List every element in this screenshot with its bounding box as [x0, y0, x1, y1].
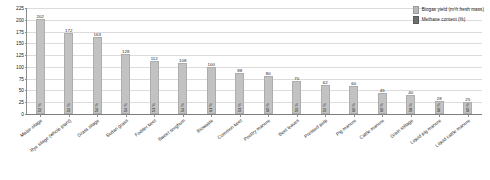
x-tick-mark — [382, 114, 383, 117]
x-tick-mark — [411, 114, 412, 117]
bar[interactable]: 4058 % — [406, 95, 415, 114]
bar[interactable]: 10854 % — [178, 63, 187, 114]
bar-value-label: 40 — [408, 90, 413, 95]
bar-group[interactable]: 8060 % — [254, 8, 283, 114]
methane-content-label: 53 % — [238, 103, 242, 112]
methane-content-label: 54 % — [124, 103, 128, 112]
legend-swatch-icon-methane — [413, 16, 419, 24]
bar-group[interactable]: 8853 % — [226, 8, 255, 114]
methane-content-label: 54 % — [95, 103, 99, 112]
bar-group[interactable]: 10061 % — [197, 8, 226, 114]
bar-group[interactable]: 10854 % — [169, 8, 198, 114]
bar[interactable]: 6060 % — [349, 86, 358, 114]
bar-value-label: 80 — [266, 71, 271, 76]
bar-value-label: 60 — [351, 81, 356, 86]
bar-group[interactable]: 16354 % — [83, 8, 112, 114]
bar-value-label: 88 — [237, 68, 242, 73]
x-label-slot: Rye silage (whole plant) — [55, 118, 84, 176]
bar-group[interactable]: 20252 % — [26, 8, 55, 114]
bar-value-label: 202 — [37, 14, 44, 19]
bar-group[interactable]: 17252 % — [55, 8, 84, 114]
x-label-slot: Sweet sorghum — [169, 118, 198, 176]
x-axis-category-label: Biowaste — [196, 118, 214, 134]
bar[interactable]: 2560 % — [463, 102, 472, 114]
x-label-slot: Beet leaves — [283, 118, 312, 176]
legend-label-methane: Methane content (%) — [422, 17, 466, 23]
bar[interactable]: 10061 % — [207, 67, 216, 114]
bar[interactable]: 6252 % — [321, 85, 330, 114]
bar-value-label: 28 — [437, 96, 442, 101]
bar[interactable]: 8060 % — [264, 76, 273, 114]
bar-group[interactable]: 6252 % — [311, 8, 340, 114]
x-label-slot: Cattle manure — [368, 118, 397, 176]
methane-content-label: 51 % — [152, 103, 156, 112]
x-label-slot: Grass silage — [83, 118, 112, 176]
x-tick-mark — [126, 114, 127, 117]
bar[interactable]: 4560 % — [378, 93, 387, 114]
methane-content-label: 60 % — [352, 103, 356, 112]
x-tick-mark — [154, 114, 155, 117]
x-tick-mark — [468, 114, 469, 117]
methane-content-label: 52 % — [67, 103, 71, 112]
bar-group[interactable]: 4560 % — [368, 8, 397, 114]
y-tick-label: 175 — [16, 29, 24, 34]
methane-content-label: 52 % — [38, 103, 42, 112]
x-axis-category-label: Maize silage — [20, 118, 44, 138]
x-tick-slot — [26, 114, 55, 117]
bar[interactable]: 17252 % — [64, 33, 73, 114]
bar[interactable]: 8853 % — [235, 73, 244, 114]
y-tick-label: 125 — [16, 53, 24, 58]
bar-value-label: 70 — [294, 76, 299, 81]
methane-content-label: 61 % — [209, 103, 213, 112]
bar-group[interactable]: 11251 % — [140, 8, 169, 114]
x-tick-slot — [340, 114, 369, 117]
x-tick-slot — [254, 114, 283, 117]
x-tick-mark — [97, 114, 98, 117]
y-tick-label: 200 — [16, 17, 24, 22]
y-tick-label: 75 — [19, 76, 24, 81]
methane-content-label: 55 % — [295, 103, 299, 112]
x-label-slot: Poultry manure — [254, 118, 283, 176]
y-tick-label: 0 — [21, 112, 24, 117]
methane-content-label: 60 % — [466, 103, 470, 112]
bar[interactable]: 16354 % — [93, 37, 102, 114]
x-label-slot: Biowaste — [197, 118, 226, 176]
bar-value-label: 112 — [151, 56, 158, 61]
chart-legend: Biogas yield (m³/t fresh mass) Methane c… — [413, 6, 484, 24]
methane-content-label: 58 % — [409, 103, 413, 112]
bar-group[interactable]: 12854 % — [112, 8, 141, 114]
x-tick-slot — [368, 114, 397, 117]
x-tick-mark — [40, 114, 41, 117]
x-label-slot: Pressed pulp — [311, 118, 340, 176]
bar-group[interactable]: 6060 % — [340, 8, 369, 114]
bar[interactable]: 12854 % — [121, 54, 130, 114]
bar[interactable]: 11251 % — [150, 61, 159, 114]
x-tick-mark — [240, 114, 241, 117]
bar-value-label: 108 — [179, 58, 186, 63]
x-tick-slot — [197, 114, 226, 117]
y-tick-label: 100 — [16, 64, 24, 69]
bar[interactable]: 7055 % — [292, 81, 301, 114]
x-tick-slot — [311, 114, 340, 117]
x-axis-labels: Maize silageRye silage (whole plant)Gras… — [26, 118, 482, 176]
x-tick-mark — [183, 114, 184, 117]
methane-content-label: 60 % — [266, 103, 270, 112]
y-tick-label: 225 — [16, 6, 24, 11]
x-tick-slot — [425, 114, 454, 117]
x-tick-mark — [354, 114, 355, 117]
y-tick-label: 25 — [19, 100, 24, 105]
bar[interactable]: 2860 % — [435, 101, 444, 114]
bar[interactable]: 20252 % — [36, 19, 45, 114]
bar-group[interactable]: 7055 % — [283, 8, 312, 114]
biogas-yield-bar-chart: Biogas yield (m³/t fresh mass) Methane c… — [0, 0, 490, 180]
x-label-slot: Sudan grass — [112, 118, 141, 176]
legend-item-methane-content: Methane content (%) — [413, 16, 484, 24]
methane-content-label: 60 % — [380, 103, 384, 112]
x-label-slot: Pig manure — [340, 118, 369, 176]
bar-value-label: 45 — [380, 88, 385, 93]
x-label-slot: Grain stillage — [397, 118, 426, 176]
x-tick-mark — [325, 114, 326, 117]
x-tick-slot — [83, 114, 112, 117]
legend-label-biogas: Biogas yield (m³/t fresh mass) — [422, 7, 484, 13]
legend-item-biogas-yield: Biogas yield (m³/t fresh mass) — [413, 6, 484, 14]
